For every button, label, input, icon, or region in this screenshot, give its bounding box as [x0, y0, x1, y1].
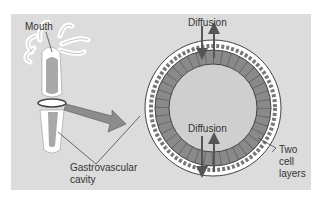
enlarge-arrow-icon — [64, 104, 126, 132]
two-layers-label-1: Two — [279, 144, 297, 155]
two-layers-label-2: cell — [279, 156, 294, 167]
gastro-label-2: cavity — [70, 174, 96, 185]
mouth-label: Mouth — [25, 21, 53, 32]
diffusion-inner-label: Diffusion — [188, 123, 227, 134]
hydra-body-icon — [26, 22, 88, 153]
gastro-pointer — [58, 116, 140, 164]
diffusion-top-label: Diffusion — [188, 17, 227, 28]
two-layers-label-3: layers — [279, 168, 306, 179]
gastro-label-1: Gastrovascular — [70, 162, 137, 173]
